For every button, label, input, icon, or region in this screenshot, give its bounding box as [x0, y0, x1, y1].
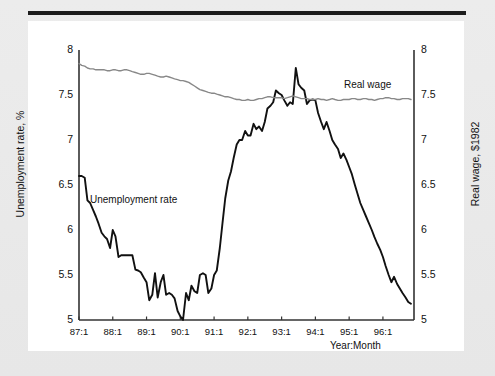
- series-lines: [79, 64, 411, 321]
- series-line-unemployment-rate: [79, 68, 411, 320]
- chart-canvas: [0, 0, 495, 376]
- plot-area: Unemployment rate, % Real wage, $1982 Ye…: [0, 0, 495, 376]
- axes-lines: [79, 50, 414, 320]
- series-line-real-wage: [79, 64, 411, 101]
- figure-container: Unemployment rate, % Real wage, $1982 Ye…: [0, 0, 495, 376]
